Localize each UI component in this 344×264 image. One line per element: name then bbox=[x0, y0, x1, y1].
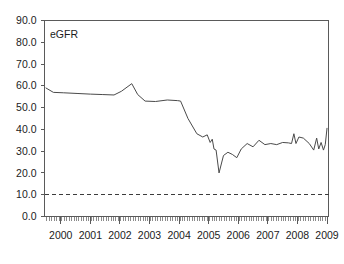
x-tick-label-1: 2001 bbox=[79, 229, 103, 241]
y-tick-label-8: 80.0 bbox=[16, 36, 37, 48]
x-tick-label-3: 2003 bbox=[138, 229, 162, 241]
y-tick-label-5: 50.0 bbox=[16, 101, 37, 113]
y-tick-label-1: 10.0 bbox=[16, 188, 37, 200]
x-tick-label-0: 2000 bbox=[49, 229, 73, 241]
y-tick-label-0: 0.0 bbox=[22, 210, 37, 222]
chart-canvas: 0.010.020.030.040.050.060.070.080.090.0 … bbox=[0, 0, 344, 264]
series-label-egfr: eGFR bbox=[50, 28, 78, 40]
y-tick-label-9: 90.0 bbox=[16, 14, 37, 26]
x-tick-label-7: 2007 bbox=[256, 229, 280, 241]
x-tick-label-5: 2005 bbox=[197, 229, 221, 241]
x-tick-label-9: 2009 bbox=[315, 229, 339, 241]
y-tick-label-3: 30.0 bbox=[16, 145, 37, 157]
x-axis-minor-ticks bbox=[47, 217, 328, 221]
y-tick-label-4: 40.0 bbox=[16, 123, 37, 135]
y-tick-label-2: 20.0 bbox=[16, 167, 37, 179]
x-tick-label-8: 2008 bbox=[286, 229, 310, 241]
egfr-chart: 0.010.020.030.040.050.060.070.080.090.0 … bbox=[0, 0, 344, 264]
x-tick-label-4: 2004 bbox=[167, 229, 191, 241]
y-tick-label-7: 70.0 bbox=[16, 58, 37, 70]
x-tick-label-6: 2006 bbox=[227, 229, 251, 241]
y-tick-label-6: 60.0 bbox=[16, 79, 37, 91]
x-tick-label-2: 2002 bbox=[108, 229, 132, 241]
